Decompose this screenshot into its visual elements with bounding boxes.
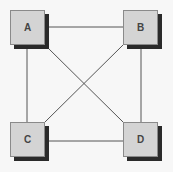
node-c-label: C <box>10 122 45 157</box>
node-a: A <box>10 10 45 45</box>
node-d: D <box>123 122 158 157</box>
node-b-label: B <box>123 10 158 45</box>
node-b: B <box>123 10 158 45</box>
node-c: C <box>10 122 45 157</box>
node-a-label: A <box>10 10 45 45</box>
node-d-label: D <box>123 122 158 157</box>
edge-a-d <box>47 47 123 122</box>
